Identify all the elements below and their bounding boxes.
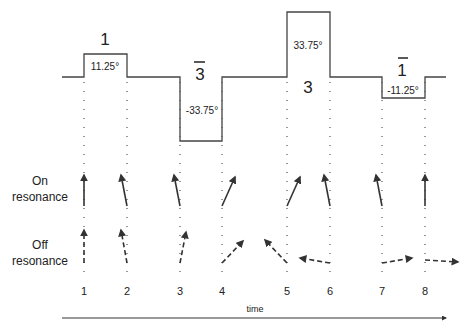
- off-resonance-vector-7: [382, 258, 412, 263]
- time-guides: [84, 82, 425, 272]
- on-resonance-vector-5: [287, 177, 300, 206]
- off-resonance-vector-8: [425, 260, 458, 262]
- time-point-label-6: 6: [327, 285, 333, 297]
- on-resonance-vector-2: [121, 175, 127, 206]
- off-resonance-vectors: [84, 230, 458, 263]
- time-axis-label: time: [246, 304, 263, 314]
- pulse-waveform: [62, 12, 446, 141]
- pulse-sequence-diagram: 1 11.25° 3 -33.75° 33.75° 3 1 -11.25° On…: [0, 0, 468, 330]
- time-point-labels: 12345678: [81, 285, 428, 297]
- on-resonance-label-line2: resonance: [12, 190, 68, 204]
- time-point-label-5: 5: [284, 285, 290, 297]
- on-resonance-vector-4: [222, 177, 235, 206]
- pulse-4-angle: -11.25°: [387, 85, 419, 96]
- off-resonance-vector-5: [265, 240, 287, 263]
- pulse-4-symbol: 1: [397, 61, 406, 80]
- off-resonance-label-line1: Off: [32, 238, 48, 252]
- off-resonance-vector-2: [121, 230, 127, 263]
- pulse-2-symbol: 3: [195, 65, 204, 84]
- on-resonance-label-line1: On: [32, 174, 48, 188]
- off-resonance-vector-6: [300, 258, 330, 263]
- time-point-label-8: 8: [422, 285, 428, 297]
- time-point-label-2: 2: [124, 285, 130, 297]
- pulse-3-symbol: 3: [303, 78, 312, 97]
- on-resonance-vector-7: [376, 175, 382, 206]
- pulse-1-angle: 11.25°: [91, 61, 119, 72]
- time-point-label-1: 1: [81, 285, 87, 297]
- time-point-label-4: 4: [219, 285, 225, 297]
- time-point-label-3: 3: [177, 285, 183, 297]
- pulse-2-angle: -33.75°: [186, 105, 218, 116]
- pulse-3-angle: 33.75°: [293, 40, 322, 51]
- on-resonance-vector-3: [174, 175, 180, 206]
- off-resonance-vector-3: [180, 232, 186, 263]
- off-resonance-vector-4: [222, 241, 243, 263]
- off-resonance-label-line2: resonance: [12, 254, 68, 268]
- on-resonance-vector-6: [324, 175, 330, 206]
- on-resonance-vectors: [84, 175, 425, 206]
- time-point-label-7: 7: [379, 285, 385, 297]
- pulse-1-symbol: 1: [100, 30, 109, 49]
